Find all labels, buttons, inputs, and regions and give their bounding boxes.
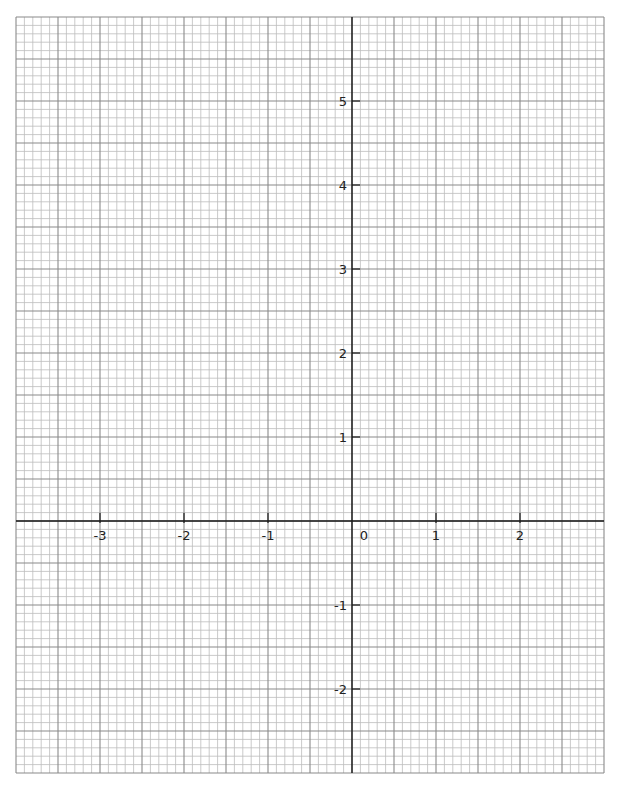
major-grid — [16, 17, 604, 773]
x-tick-label: -1 — [262, 528, 275, 543]
y-tick-label: -2 — [334, 682, 347, 697]
y-tick-label: 5 — [339, 94, 347, 109]
y-tick-label: 3 — [339, 262, 347, 277]
y-tick-label: -1 — [334, 598, 347, 613]
origin-label: 0 — [360, 528, 368, 543]
x-tick-label: 2 — [516, 528, 524, 543]
x-tick-label: -3 — [94, 528, 107, 543]
x-tick-label: 1 — [432, 528, 440, 543]
graph-paper-plot: -3-2-11254321-1-20 — [0, 0, 621, 791]
y-tick-label: 2 — [339, 346, 347, 361]
y-tick-label: 1 — [339, 430, 347, 445]
x-tick-label: -2 — [178, 528, 191, 543]
y-tick-label: 4 — [339, 178, 347, 193]
